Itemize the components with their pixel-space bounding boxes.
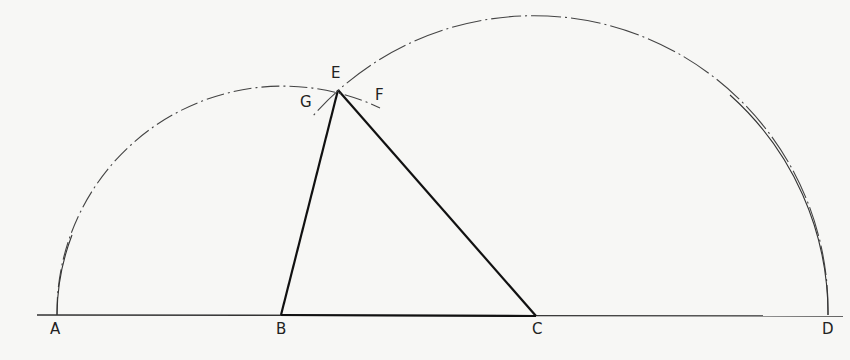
arc-centered-b-base xyxy=(57,235,72,315)
segment-ce xyxy=(338,90,536,316)
label-c: C xyxy=(532,320,542,338)
arc-centered-b xyxy=(57,86,380,315)
label-f: F xyxy=(375,86,384,104)
construction-diagram: A B C D E F G xyxy=(0,0,850,360)
label-d: D xyxy=(822,320,834,338)
label-a: A xyxy=(50,320,61,338)
arc-centered-c xyxy=(312,16,828,315)
segment-bc xyxy=(281,315,536,316)
diagram-canvas: A B C D E F G xyxy=(0,0,850,360)
label-g: G xyxy=(300,93,312,111)
arc-centered-c-base xyxy=(730,95,828,315)
label-b: B xyxy=(276,320,286,338)
label-e: E xyxy=(331,64,340,82)
segment-be xyxy=(281,90,338,315)
